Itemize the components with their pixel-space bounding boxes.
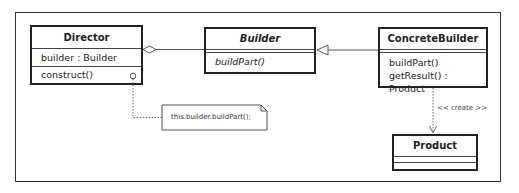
note-anchor-circle-icon bbox=[130, 73, 136, 79]
aggregation-connector bbox=[143, 46, 204, 53]
connectors bbox=[0, 0, 519, 193]
note-connector bbox=[130, 73, 162, 117]
dependency-label: << create >> bbox=[437, 104, 487, 112]
dependency-connector bbox=[430, 88, 437, 133]
aggregation-diamond-icon bbox=[143, 46, 156, 53]
inheritance-triangle-icon bbox=[317, 45, 328, 55]
generalization-connector bbox=[317, 45, 378, 55]
note-text: this.builder.buildPart(); bbox=[171, 113, 251, 121]
